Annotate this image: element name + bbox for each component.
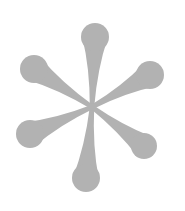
petal-upper-right [91,61,164,109]
asterisk-center [88,103,96,111]
petal-bottom [72,107,100,192]
petal-top [81,23,109,107]
petal-lower-left [16,105,93,148]
asterisk-petals [16,23,164,192]
asterisk-icon [0,0,185,211]
petal-upper-left [20,55,93,109]
petal-lower-right [91,105,157,159]
